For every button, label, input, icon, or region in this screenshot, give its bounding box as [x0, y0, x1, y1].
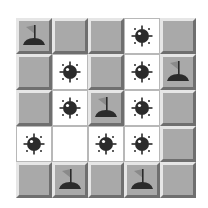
cell-r3-c3-mine[interactable]: [124, 126, 160, 162]
mine-icon: [130, 60, 154, 84]
mine-icon: [130, 96, 154, 120]
cell-r4-c0-covered[interactable]: [16, 162, 52, 198]
cell-r0-c2-covered[interactable]: [88, 18, 124, 54]
mine-icon: [22, 132, 46, 156]
flag-icon: [164, 59, 192, 85]
flag-icon: [92, 95, 120, 121]
cell-r1-c4-flag[interactable]: [160, 54, 196, 90]
flag-icon: [20, 23, 48, 49]
minesweeper-board: [16, 18, 196, 198]
mine-icon: [94, 132, 118, 156]
cell-r1-c0-covered[interactable]: [16, 54, 52, 90]
cell-r3-c4-covered[interactable]: [160, 126, 196, 162]
cell-r4-c3-flag[interactable]: [124, 162, 160, 198]
cell-r0-c4-covered[interactable]: [160, 18, 196, 54]
cell-r0-c1-covered[interactable]: [52, 18, 88, 54]
mine-icon: [130, 132, 154, 156]
cell-r1-c1-mine[interactable]: [52, 54, 88, 90]
mine-icon: [58, 60, 82, 84]
cell-r4-c4-covered[interactable]: [160, 162, 196, 198]
mine-icon: [130, 24, 154, 48]
cell-r2-c1-mine[interactable]: [52, 90, 88, 126]
cell-r2-c4-covered[interactable]: [160, 90, 196, 126]
cell-r2-c3-mine[interactable]: [124, 90, 160, 126]
flag-icon: [128, 167, 156, 193]
cell-r4-c2-covered[interactable]: [88, 162, 124, 198]
cell-r3-c0-mine[interactable]: [16, 126, 52, 162]
flag-icon: [56, 167, 84, 193]
cell-r0-c0-flag[interactable]: [16, 18, 52, 54]
cell-r0-c3-mine[interactable]: [124, 18, 160, 54]
cell-r1-c2-covered[interactable]: [88, 54, 124, 90]
cell-r2-c2-flag[interactable]: [88, 90, 124, 126]
mine-icon: [58, 96, 82, 120]
cell-r3-c2-mine[interactable]: [88, 126, 124, 162]
cell-r2-c0-covered[interactable]: [16, 90, 52, 126]
cell-r3-c1-empty[interactable]: [52, 126, 88, 162]
cell-r1-c3-mine[interactable]: [124, 54, 160, 90]
cell-r4-c1-flag[interactable]: [52, 162, 88, 198]
